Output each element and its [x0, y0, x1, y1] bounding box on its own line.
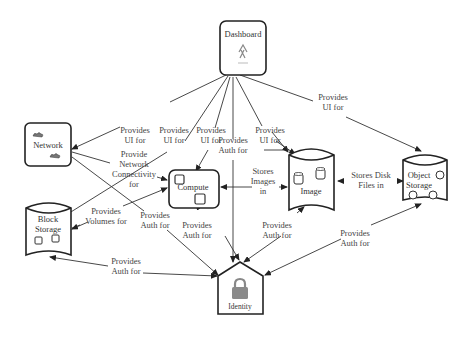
- edge-label: ProvidesUI for: [255, 125, 285, 145]
- node-identity[interactable]: Identity: [218, 262, 263, 314]
- edge-label: StoresImagesin: [251, 166, 276, 196]
- node-image[interactable]: Image: [289, 149, 334, 210]
- node-network[interactable]: Network: [25, 123, 71, 166]
- edge-network-compute: ProvideNetworkConnectivityfor: [72, 149, 167, 189]
- node-dashboard[interactable]: Dashboard: [220, 21, 266, 75]
- node-object-storage[interactable]: ObjectStorage: [403, 155, 447, 200]
- edge-image-identity: ProvidesAuth for: [244, 207, 304, 262]
- edge-label: ProvidesUI for: [318, 92, 348, 112]
- node-label: ObjectStorage: [406, 170, 432, 190]
- edge-label: ProvidesUI for: [120, 125, 150, 145]
- node-compute[interactable]: Compute: [169, 170, 219, 208]
- edge-dashboard-identity: ProvidesAuth for: [218, 77, 248, 262]
- edge-compute-identity: ProvidesAuth for: [182, 204, 239, 260]
- edge-block-storage-identity: ProvidesAuth for: [50, 256, 217, 276]
- architecture-diagram: ProvidesUI for ProvidesUI for ProvidesUI…: [0, 0, 468, 337]
- node-label: Network: [33, 140, 63, 150]
- edge-label: Stores DiskFiles in: [351, 170, 391, 190]
- edge-label: ProvidesAuth for: [111, 256, 141, 276]
- edge-image-object-storage: Stores DiskFiles in: [338, 170, 403, 190]
- edge-label: ProvidesAuth for: [340, 228, 370, 248]
- edge-label: ProvidesAuth for: [140, 210, 170, 230]
- edge-label: ProvidesUI for: [159, 125, 189, 145]
- edge-label: ProvidesAuth for: [182, 220, 212, 240]
- node-block-storage[interactable]: BlockStorage: [26, 203, 71, 255]
- node-label: BlockStorage: [35, 214, 61, 234]
- node-label: Identity: [228, 302, 252, 311]
- node-label: Image: [300, 186, 321, 196]
- edge-dashboard-compute: ProvidesUI for: [196, 77, 230, 171]
- edge-image-compute: StoresImagesin: [221, 166, 287, 196]
- edge-label: ProvidesAuth for: [218, 135, 248, 155]
- node-label: Dashboard: [225, 29, 263, 39]
- edge-label: ProvidesAuth for: [262, 220, 292, 240]
- edge-label: ProvideNetworkConnectivityfor: [112, 149, 157, 189]
- edge-label: ProvidesVolumes for: [85, 206, 127, 226]
